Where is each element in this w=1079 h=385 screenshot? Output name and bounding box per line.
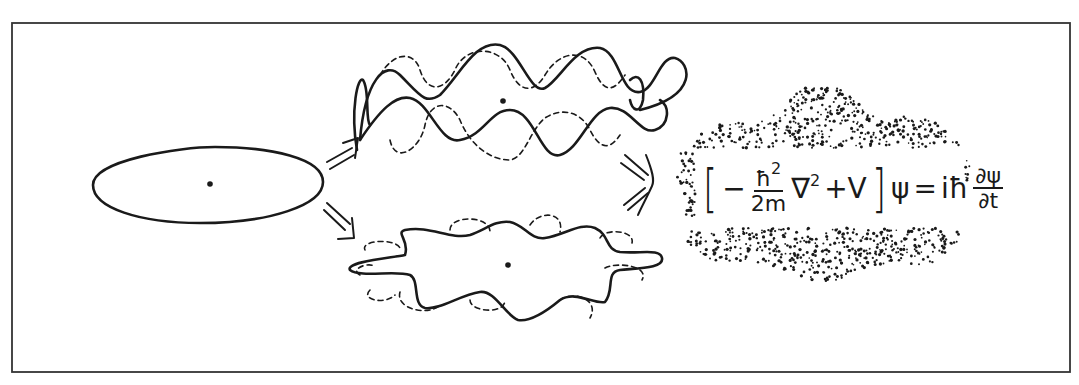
hbar: ħ xyxy=(756,166,771,191)
nucleus-dot xyxy=(505,262,511,268)
nabla: ∇ xyxy=(791,172,810,205)
nucleus-dot xyxy=(500,98,506,104)
time-derivative: ∂ψ ∂t xyxy=(973,164,1003,212)
exponent: 2 xyxy=(771,159,781,178)
derivative-numerator: ∂ψ xyxy=(973,164,1003,189)
fraction-denominator: 2m xyxy=(751,192,786,215)
open-bracket: [ xyxy=(703,162,717,214)
exponent: 2 xyxy=(810,171,820,190)
laplacian: ∇2 xyxy=(791,171,820,205)
derivative-denominator: ∂t xyxy=(978,189,998,212)
helical-standing-wave xyxy=(354,45,686,160)
plus-potential: +V xyxy=(824,172,867,205)
equals-sign: = xyxy=(914,172,937,205)
close-bracket: ] xyxy=(872,162,886,214)
minus-sign: − xyxy=(722,172,745,205)
classical-orbit xyxy=(93,147,323,223)
arrow-to-cloud xyxy=(621,155,653,215)
nucleus-dot xyxy=(207,181,213,187)
arrow-to-planar-wave xyxy=(324,203,354,239)
i-hbar: iħ xyxy=(941,172,968,205)
psi: ψ xyxy=(891,172,909,205)
schrodinger-equation: [ − ħ2 2m ∇2 +V ] ψ = iħ ∂ψ ∂t xyxy=(700,150,980,226)
planar-standing-wave xyxy=(350,215,663,320)
arrow-to-helix xyxy=(327,138,358,169)
hbar-fraction: ħ2 2m xyxy=(751,161,786,215)
fraction-numerator: ħ2 xyxy=(754,161,783,192)
